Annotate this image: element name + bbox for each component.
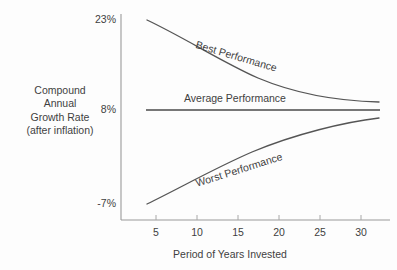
growth-rate-chart: Compound Annual Growth Rate (after infla…: [0, 0, 397, 270]
x-tick-label-5: 5: [143, 226, 169, 239]
y-axis-title-line-4: (after inflation): [8, 124, 112, 137]
x-tick-label-10: 10: [184, 226, 210, 239]
x-tick-label-30: 30: [348, 226, 374, 239]
x-tick-label-25: 25: [307, 226, 333, 239]
x-tick-label-15: 15: [225, 226, 251, 239]
y-tick-label-8: 8%: [82, 103, 116, 116]
y-tick-label-23: 23%: [82, 13, 116, 26]
average-performance-label: Average Performance: [184, 92, 286, 105]
x-axis-title: Period of Years Invested: [130, 248, 330, 261]
x-tick-label-20: 20: [266, 226, 292, 239]
x-axis-tick-marks: [156, 215, 361, 220]
y-tick-label-neg7: -7%: [82, 197, 116, 210]
y-axis-title-line-1: Compound: [8, 84, 112, 97]
